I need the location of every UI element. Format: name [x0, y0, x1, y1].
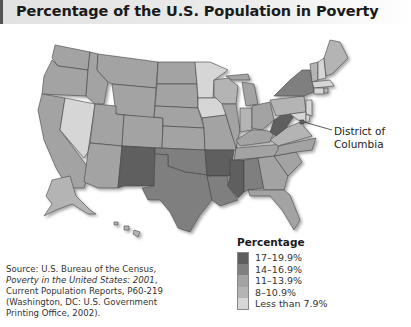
legend-swatch: [237, 287, 249, 299]
state-dc: [300, 120, 304, 124]
state-arizona: [84, 143, 122, 188]
source-line: Source: U.S. Bureau of the Census,: [6, 264, 206, 275]
dc-label-line2: Columbia: [334, 138, 385, 151]
state-new-jersey: [306, 100, 312, 116]
state-arkansas: [205, 150, 234, 176]
legend-label: Less than 7.9%: [255, 298, 328, 309]
legend-item: 17–19.9%: [237, 252, 328, 264]
legend: Percentage 17–19.9% 14–16.9% 11–13.9% 8–…: [237, 236, 328, 310]
legend-swatch: [237, 298, 249, 310]
dc-leader-line: [304, 122, 332, 130]
state-indiana: [240, 108, 252, 132]
legend-label: 11–13.9%: [255, 275, 302, 286]
source-line: Printing Office, 2002).: [6, 308, 206, 319]
legend-title: Percentage: [237, 236, 328, 248]
state-hawaii: [114, 222, 140, 237]
state-new-mexico: [118, 146, 155, 188]
legend-item: 8–10.9%: [237, 287, 328, 299]
legend-item: 11–13.9%: [237, 275, 328, 287]
legend-label: 17–19.9%: [255, 252, 302, 263]
legend-swatch: [237, 252, 249, 264]
state-kansas: [162, 126, 205, 150]
state-florida: [248, 190, 300, 230]
source-line: Current Population Reports, P60-219: [6, 286, 206, 297]
state-maine: [324, 40, 348, 76]
state-connecticut: [314, 88, 324, 94]
dc-annotation: District of Columbia: [334, 125, 385, 151]
source-line: Poverty in the United States: 2001,: [6, 275, 206, 286]
source-publication-title: Poverty in the United States: 2001: [6, 275, 155, 285]
source-citation: Source: U.S. Bureau of the Census, Pover…: [6, 264, 206, 319]
legend-label: 8–10.9%: [255, 287, 296, 298]
source-line: (Washington, DC: U.S. Government: [6, 297, 206, 308]
legend-swatch: [237, 275, 249, 287]
state-new-york: [274, 70, 314, 96]
legend-item: Less than 7.9%: [237, 298, 328, 310]
state-south-dakota: [155, 84, 198, 108]
state-colorado: [122, 115, 163, 148]
legend-item: 14–16.9%: [237, 264, 328, 276]
state-ohio: [252, 102, 274, 130]
state-kentucky: [236, 130, 274, 146]
state-rhode-island: [324, 88, 328, 93]
source-comma: ,: [155, 275, 158, 285]
state-wyoming: [112, 84, 156, 118]
dc-label-line1: District of: [334, 125, 385, 138]
state-north-dakota: [157, 62, 197, 84]
legend-label: 14–16.9%: [255, 264, 302, 275]
legend-swatch: [237, 264, 249, 276]
